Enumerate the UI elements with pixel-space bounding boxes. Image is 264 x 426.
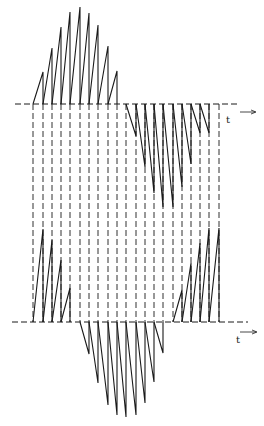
bottom-negative-tooth bbox=[117, 322, 126, 417]
bottom-positive-tooth bbox=[61, 288, 70, 322]
top-positive-tooth bbox=[70, 7, 80, 104]
bottom-positive-tooth bbox=[200, 228, 209, 322]
bottom-axis-label-group: t bbox=[236, 330, 257, 345]
bottom-axis-label: t bbox=[236, 334, 240, 345]
top-negative-tooth bbox=[154, 104, 163, 207]
top-positive-tooth bbox=[33, 72, 43, 104]
top-negative-tooth bbox=[173, 104, 182, 187]
bottom-negative-tooth bbox=[108, 322, 117, 415]
bottom-negative-tooth bbox=[126, 322, 136, 415]
bottom-negative-tooth bbox=[145, 322, 154, 382]
top-axis-label-group: t bbox=[226, 110, 256, 125]
top-positive-tooth bbox=[43, 48, 52, 104]
top-positive-tooth bbox=[52, 27, 61, 104]
bottom-positive-tooth bbox=[209, 228, 219, 322]
top-positive-tooth bbox=[61, 12, 70, 104]
sawtooth-diagram: t t bbox=[0, 0, 264, 426]
top-negative-tooth bbox=[145, 104, 154, 193]
top-positive-tooth bbox=[80, 13, 89, 104]
bottom-positive-tooth bbox=[33, 229, 43, 322]
bottom-negative-tooth bbox=[136, 322, 145, 403]
top-negative-tooth bbox=[182, 104, 191, 164]
bottom-positive-tooth bbox=[43, 240, 52, 322]
top-negative-tooth bbox=[191, 104, 200, 133]
top-negative-tooth bbox=[200, 104, 209, 133]
bottom-negative-tooth bbox=[98, 322, 108, 405]
bottom-positive-tooth bbox=[182, 263, 191, 322]
top-axis-label: t bbox=[226, 114, 230, 125]
top-negative-tooth bbox=[136, 104, 145, 167]
top-positive-tooth bbox=[98, 46, 108, 104]
top-positive-tooth bbox=[108, 71, 117, 104]
bottom-negative-tooth bbox=[154, 322, 163, 353]
bottom-negative-tooth bbox=[80, 322, 89, 354]
top-negative-tooth bbox=[163, 104, 173, 207]
bottom-positive-tooth bbox=[173, 290, 182, 322]
bottom-positive-tooth bbox=[191, 243, 200, 322]
bottom-negative-tooth bbox=[89, 322, 98, 383]
bottom-positive-tooth bbox=[52, 260, 61, 322]
top-positive-tooth bbox=[89, 25, 98, 104]
top-negative-tooth bbox=[126, 104, 136, 136]
